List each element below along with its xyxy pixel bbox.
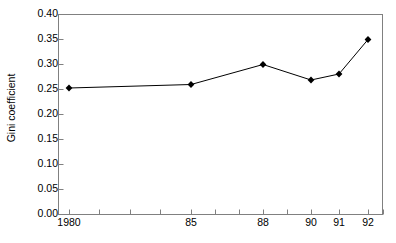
gini-coefficient-line-chart: Gini coefficient 0.40 0.35 0.30 0.25 0.2… [0, 0, 396, 243]
plot-frame [59, 15, 383, 215]
x-axis-tick-labels: 1980 85 88 90 91 92 [0, 216, 396, 236]
x-tick-label: 1980 [57, 216, 80, 228]
x-tick-label: 92 [362, 216, 374, 228]
x-tick-label: 88 [257, 216, 269, 228]
x-tick-label: 91 [333, 216, 345, 228]
x-tick-label: 85 [185, 216, 197, 228]
x-tick-label: 90 [305, 216, 317, 228]
plot-area [0, 0, 396, 243]
